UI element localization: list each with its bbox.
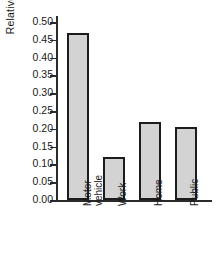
x-category-label: Work — [118, 183, 129, 206]
x-category-label: Motor vehicle — [83, 175, 104, 206]
y-tick-label: 0.35 — [33, 68, 53, 81]
y-tick-label: 0.10 — [33, 157, 53, 170]
y-tick-label: 0.25 — [33, 104, 53, 117]
plot-area: 0.000.050.100.150.200.250.300.350.400.45… — [56, 16, 212, 202]
y-tick-label: 0.40 — [33, 51, 53, 64]
y-tick-label: 0.15 — [33, 140, 53, 153]
y-axis-title: Relative frequency — [4, 0, 18, 64]
x-category-label: Public — [190, 179, 201, 206]
y-tick-label: 0.20 — [33, 122, 53, 135]
y-axis-line — [56, 16, 58, 202]
x-category-label: Home — [154, 179, 165, 206]
bar-chart: Relative frequency 0.000.050.100.150.200… — [0, 0, 218, 264]
y-tick-label: 0.00 — [33, 193, 53, 206]
y-tick-label: 0.45 — [33, 33, 53, 46]
y-tick-label: 0.05 — [33, 175, 53, 188]
y-tick-label: 0.30 — [33, 86, 53, 99]
y-tick-label: 0.50 — [33, 15, 53, 28]
